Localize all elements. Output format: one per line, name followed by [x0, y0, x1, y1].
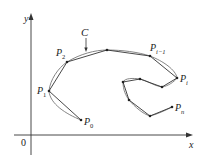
point-p1 — [48, 90, 51, 93]
point-vertex — [106, 49, 109, 52]
label-p0: P0 — [83, 116, 93, 129]
label-p2: P2 — [55, 47, 65, 60]
curve-label-pointer — [84, 38, 87, 52]
x-axis-arrow-icon — [186, 133, 193, 138]
label-pi-minus-1: Pi−1 — [149, 42, 166, 55]
point-vertex — [139, 78, 142, 81]
point-p0 — [80, 119, 83, 122]
point-pi-minus-1 — [149, 55, 152, 58]
polygon-approximation — [49, 50, 177, 120]
point-pn — [171, 106, 174, 109]
point-vertex — [122, 81, 125, 84]
point-vertex — [128, 99, 131, 102]
pointer-arrow-icon — [84, 48, 87, 53]
label-pi: Pi — [179, 73, 188, 86]
point-p2 — [66, 61, 69, 64]
y-axis-label: y — [23, 13, 29, 24]
point-vertex — [149, 115, 152, 118]
x-axis-label: x — [188, 139, 194, 150]
origin-label: 0 — [21, 137, 26, 148]
y-axis-arrow-icon — [29, 13, 34, 20]
label-pn: Pn — [174, 102, 184, 115]
curve-label: C — [81, 26, 89, 38]
point-pi — [176, 77, 179, 80]
polygonal-approximation-figure: y x 0 C P0 P1 P2 Pi−1 Pi Pn — [0, 0, 203, 165]
label-p1: P1 — [36, 85, 46, 98]
diagram-canvas: y x 0 C P0 P1 P2 Pi−1 Pi Pn — [0, 0, 203, 165]
point-vertex — [161, 86, 164, 89]
